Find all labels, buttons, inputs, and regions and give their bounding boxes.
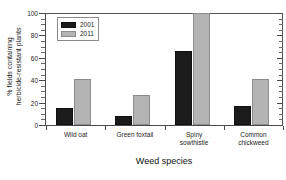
bar-group-green-foxtail	[105, 13, 164, 125]
x-axis-label-wild-oat: Wild oat	[45, 131, 107, 139]
y-axis-minor-tick	[41, 52, 45, 53]
y-axis-tick-0	[39, 125, 45, 126]
y-axis-minor-tick	[41, 86, 45, 87]
y-axis-tick-label-60: 60	[18, 54, 38, 61]
x-axis-tick	[283, 126, 284, 130]
bar-2011-wild-oat	[74, 79, 91, 125]
y-axis-minor-tick	[41, 91, 45, 92]
bar-2001-spiny-sowthistle	[175, 51, 192, 125]
y-axis-tick-60	[39, 58, 45, 59]
y-axis-tick-20	[39, 103, 45, 104]
x-axis-label-spiny-sowthistle: Spinysowthistle	[163, 131, 225, 147]
x-axis-tick	[105, 126, 106, 130]
y-axis-minor-tick	[41, 19, 45, 20]
y-axis-tick-label-40: 40	[18, 77, 38, 84]
bar-2001-wild-oat	[56, 108, 73, 125]
y-axis-minor-tick	[41, 30, 45, 31]
bar-2001-green-foxtail	[115, 116, 132, 125]
y-axis-minor-tick	[41, 75, 45, 76]
x-axis-tick	[46, 126, 47, 130]
y-axis-minor-tick	[41, 41, 45, 42]
y-axis-tick-label-0: 0	[18, 122, 38, 129]
y-axis-minor-tick	[41, 108, 45, 109]
bar-2001-common-chickweed	[234, 106, 251, 125]
y-axis-tick-100	[39, 13, 45, 14]
y-axis-minor-tick	[41, 114, 45, 115]
y-axis-title-line-1: % fields containing	[7, 37, 14, 95]
y-axis-tick-label-100: 100	[18, 10, 38, 17]
bar-2011-common-chickweed	[252, 79, 269, 125]
bar-2011-spiny-sowthistle	[193, 13, 210, 125]
bar-2011-green-foxtail	[133, 95, 150, 125]
x-axis-category-labels: Wild oatGreen foxtailSpinysowthistleComm…	[46, 131, 283, 153]
y-axis-minor-tick	[41, 47, 45, 48]
legend-item-2011: 2011	[61, 29, 94, 38]
x-axis-label-common-chickweed: Commonchickweed	[222, 131, 284, 147]
legend-label-2001: 2001	[80, 21, 94, 28]
y-axis-minor-tick	[41, 69, 45, 70]
y-axis-minor-tick	[41, 119, 45, 120]
x-axis-title: Weed species	[45, 156, 283, 166]
x-axis-label-green-foxtail: Green foxtail	[104, 131, 166, 139]
x-axis-tick	[224, 126, 225, 130]
y-axis-tick-label-80: 80	[18, 32, 38, 39]
legend-swatch-2001	[61, 22, 76, 28]
y-axis-minor-tick	[41, 24, 45, 25]
y-axis-tick-label-20: 20	[18, 99, 38, 106]
legend-swatch-2011	[61, 31, 76, 37]
y-axis-title: % fields containing herbicide-resistant …	[0, 0, 30, 132]
y-axis-tick-40	[39, 80, 45, 81]
y-axis-minor-tick	[41, 63, 45, 64]
bar-chart-figure: % fields containing herbicide-resistant …	[0, 0, 286, 180]
y-axis-minor-tick	[41, 97, 45, 98]
legend: 2001 2011	[57, 17, 99, 41]
x-axis-tick	[165, 126, 166, 130]
y-axis-tick-80	[39, 35, 45, 36]
bar-group-spiny-sowthistle	[165, 13, 224, 125]
legend-item-2001: 2001	[61, 20, 94, 29]
bar-group-common-chickweed	[224, 13, 283, 125]
legend-label-2011: 2011	[80, 30, 94, 37]
